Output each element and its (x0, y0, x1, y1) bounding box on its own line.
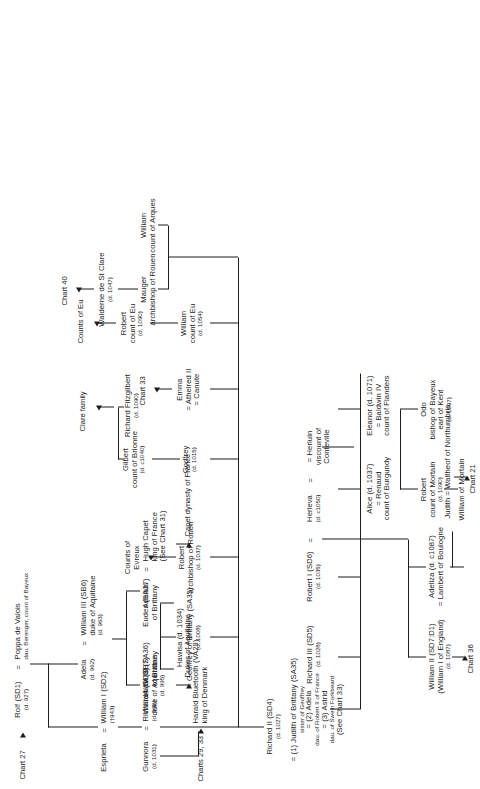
person-eudes: Eudes (SA37) of Brittany (142, 567, 159, 637)
person-william-of-mortain: William of Mortain (458, 439, 467, 539)
ref-chart-36[interactable]: Chart 36 (466, 644, 475, 673)
line-evreux (152, 556, 176, 557)
line-william-i-down (118, 726, 142, 727)
arrow-counts-of-evreux (148, 555, 154, 560)
person-william-i: William I (SD2) (†943) (100, 651, 115, 723)
person-william-count-of-arques: William count of Arques (140, 185, 157, 265)
drop-william-eu (210, 322, 238, 323)
line-clare-family (100, 406, 114, 407)
line-mauger-arques-bar (168, 225, 169, 289)
drop-hawisa (210, 636, 238, 637)
drop-william-arques (158, 224, 168, 225)
line-robert-children-bar (408, 539, 409, 657)
line-harald-bar (198, 731, 199, 756)
ref-chart-33[interactable]: Chart 33 (138, 376, 147, 405)
outcome-counts-of-eu: Counts of Eu (76, 299, 85, 343)
line-godfrey-to-gilbert (152, 458, 180, 459)
arrow-clare-family (96, 405, 102, 410)
marriage-sign-adela: = (80, 641, 89, 645)
line-herluin-children-bar (400, 409, 401, 489)
arrow-chart-40 (76, 287, 82, 292)
line-rolf-down (30, 663, 48, 664)
person-richard-ii: Richard II (SD4) (d. 1027) (266, 689, 281, 763)
line-judith-connector (452, 531, 453, 567)
line-robert-to-william-mortain (444, 488, 458, 489)
drop-robert-i (338, 576, 360, 577)
line-to-adelais (126, 590, 140, 591)
line-aquitaine-children-bar (126, 591, 127, 685)
ref-chart-27[interactable]: Chart 27 (18, 750, 27, 779)
drop-eleanor (338, 408, 360, 409)
drop-robert-abp (210, 556, 238, 557)
line-gilbert-up (118, 458, 124, 459)
drop-robert-mortain (400, 488, 418, 489)
line-to-william-iv (126, 684, 140, 685)
line-mauger-down-walderne (118, 288, 138, 289)
person-robert-i: Robert I (SD6) (d. 1035) (306, 543, 321, 609)
drop-eudes (160, 602, 174, 603)
genealogy-chart-canvas: Chart 27 Rolf (SD1) (d. 927) = Poppa de … (0, 0, 480, 789)
drop-alice (338, 488, 360, 489)
line-emma-chart33 (158, 388, 172, 389)
arrow-chart-33 (154, 387, 160, 392)
person-adela: Adela (d. 962) (80, 647, 95, 691)
person-alain-iii: Alain III (SA36) of Brittany (142, 631, 159, 705)
person-odo: Odo bishop of Bayeux earl of Kent (d. 10… (420, 361, 452, 457)
line-harald-to-gunnora (160, 755, 198, 756)
person-walderne-de-st-clare: Walderne de St Clare (d. 1047) (98, 241, 113, 337)
line-to-william-i (48, 726, 98, 727)
drop-richard-iii (338, 656, 360, 657)
marriage-sign-herleva-herluin: = (306, 478, 315, 482)
line-richard-i-children-bar (238, 257, 239, 727)
ref-chart-40[interactable]: Chart 40 (60, 276, 69, 305)
line-adela-down (112, 638, 126, 639)
outcome-clare-family: Clare family (78, 391, 87, 431)
person-herleva: Herleva (d. c1050) (306, 483, 321, 533)
line-herluin-down (322, 446, 354, 447)
line-gilbert-to-fitzgilbert (118, 407, 119, 459)
line-richard-ii-to-trunk (330, 708, 360, 709)
ref-chart-21[interactable]: Chart 21 (468, 464, 477, 493)
line-richard-ii-trunk (360, 373, 361, 709)
person-eleanor: Eleanor (d. 1071) = Baldwin IV count of … (366, 361, 392, 449)
person-robert-count-of-mortain: Robert count of Mortain (d. 1090) (420, 445, 444, 533)
line-to-adela (48, 663, 78, 664)
drop-godfrey (210, 458, 238, 459)
line-richard-i-down (160, 726, 238, 727)
drop-mauger (158, 288, 168, 289)
marriage-sign-rolf: = (14, 665, 23, 669)
outcome-counts-of-evreux: Counts of Evreux (124, 525, 141, 589)
person-william-iii-aquitaine: William III (SB6) duke of Aquitaine (d. … (80, 537, 104, 635)
line-robert-herleva-down (322, 538, 408, 539)
drop-adeliza (408, 566, 426, 567)
person-william-count-of-eu: William count of Eu (d. 1054) (180, 287, 204, 359)
person-robert-archbishop-rouen: Robert archbishop of Rouen (d. 1037) (178, 501, 202, 613)
person-gunnora: Gunnora (d. 1031) (142, 731, 157, 781)
drop-alain-iii (160, 668, 174, 669)
line-hawisa-up (160, 636, 176, 637)
person-richard-iii: Richard III (SD5) (d. 1028) (306, 615, 321, 693)
arrow-to-rolf (20, 732, 26, 737)
drop-mauger-william-arques (168, 256, 238, 257)
person-poppa: Poppa de Valois dau. Berenger, count of … (14, 541, 29, 659)
person-alice: Alice (d. 1037) = Renaud count of Burgun… (366, 447, 392, 529)
line-rolf-children-bar (48, 663, 49, 727)
person-rolf: Rolf (SD1) (d. 927) (14, 671, 29, 727)
marriage-sign-robert-i: = (306, 538, 315, 542)
person-emma: Emma = Athelred II = Canute (176, 361, 202, 417)
marriage-sign-esprieta: = (100, 728, 109, 732)
line-walderne-chart40 (80, 288, 94, 289)
person-godfrey: Godfrey (d. 1015) (182, 429, 197, 489)
drop-emma (210, 388, 238, 389)
drop-richard-ii (238, 726, 264, 727)
drop-odo (400, 408, 418, 409)
drop-william-ii (408, 656, 426, 657)
person-esprieta: Esprieta (100, 733, 109, 781)
marriage-sign-gunnora: = (142, 726, 151, 730)
